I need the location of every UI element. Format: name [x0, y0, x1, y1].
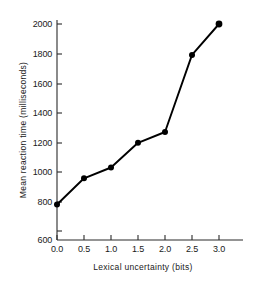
data-point-0	[54, 202, 60, 208]
y-tick-label-1200: 1200	[33, 138, 52, 148]
data-point-1	[81, 175, 87, 181]
y-tick-label-1400: 1400	[33, 108, 52, 118]
x-tick-label-2-5: 2.5	[186, 244, 198, 254]
y-tick-label-1000: 1000	[33, 167, 52, 177]
data-point-6	[216, 21, 223, 28]
data-point-3	[135, 140, 141, 146]
y-tick-label-1800: 1800	[33, 49, 52, 59]
x-tick-label-2-0: 2.0	[159, 244, 171, 254]
x-axis-title: Lexical uncertainty (bits)	[93, 262, 192, 272]
y-tick-label-1600: 1600	[33, 79, 52, 89]
y-axis-title: Mean reaction time (milliseconds)	[18, 62, 28, 199]
x-tick-label-3-0: 3.0	[213, 244, 225, 254]
data-point-2	[108, 165, 114, 171]
x-tick-label-1-0: 1.0	[105, 244, 117, 254]
data-point-5	[189, 52, 195, 58]
line-chart: 2000 1800 1600 1400 1200 1000 800 600 0.…	[0, 0, 253, 288]
x-tick-label-1-5: 1.5	[132, 244, 144, 254]
y-tick-label-2000: 2000	[33, 19, 52, 29]
x-tick-marks	[57, 235, 219, 240]
chart-figure: 2000 1800 1600 1400 1200 1000 800 600 0.…	[0, 0, 253, 288]
x-tick-label-0-0: 0.0	[51, 244, 63, 254]
y-tick-label-800: 800	[38, 197, 53, 207]
x-tick-label-0-5: 0.5	[78, 244, 90, 254]
y-tick-label-600: 600	[38, 235, 53, 245]
data-point-4	[162, 129, 168, 135]
